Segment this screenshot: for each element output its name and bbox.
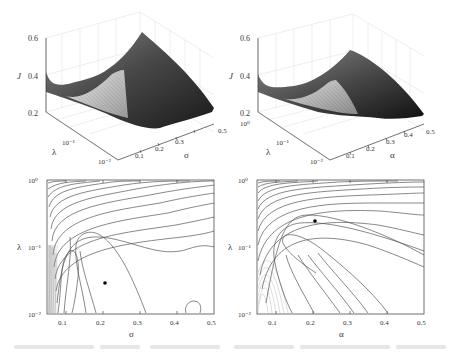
z-axis-label: J: [17, 71, 22, 81]
x-tick: 0.2: [306, 319, 315, 327]
y-tick: 10⁰: [238, 177, 248, 185]
z-tick: 0.6: [240, 34, 250, 43]
y-tick: 10⁻¹: [276, 139, 289, 147]
x-axis-label: σ: [129, 329, 134, 339]
y-tick: 10⁻¹: [62, 139, 75, 147]
x-axis: [330, 124, 424, 160]
z-tick: 0.2: [28, 109, 38, 118]
contour-plot-alpha: 10⁰ 10⁻¹ 10⁻² λ 0.1 0.2 0.3 0.4 0.5 α: [228, 175, 456, 343]
z-tick: 0.6: [28, 34, 38, 43]
y-axis-label: λ: [266, 147, 271, 157]
x-tick: 0.1: [58, 319, 67, 327]
x-tick: 0.1: [135, 152, 144, 160]
x-tick: 0.2: [366, 145, 375, 153]
z-tick: 0.4: [240, 72, 250, 81]
contour-plot-alpha-canvas: 10⁰ 10⁻¹ 10⁻² λ 0.1 0.2 0.3 0.4 0.5 α: [228, 175, 456, 343]
surface-plot-sigma: 0.6 0.4 0.2 J 10⁻¹ 10⁻² λ 0.1 0.2 0.3 0.…: [0, 0, 228, 175]
x-tick: 0.3: [386, 138, 395, 146]
surface-plot-alpha-canvas: 0.6 0.4 0.2 J 10⁰ 10⁻¹ 10⁻² λ 0.1 0.2 0.…: [228, 0, 456, 175]
x-tick: 0.4: [380, 319, 389, 327]
y-tick: 10⁻²: [98, 158, 111, 166]
x-tick: 0.3: [133, 319, 142, 327]
y-tick: 10⁻¹: [28, 244, 41, 252]
x-tick: 0.2: [155, 145, 164, 153]
z-axis-label: J: [229, 71, 234, 81]
surface-plot-alpha: 0.6 0.4 0.2 J 10⁰ 10⁻¹ 10⁻² λ 0.1 0.2 0.…: [228, 0, 456, 175]
y-axis-label: λ: [17, 242, 22, 252]
x-tick: 0.2: [96, 319, 105, 327]
x-tick: 0.5: [218, 127, 227, 135]
x-tick: 0.4: [404, 131, 413, 139]
plot-area: [257, 180, 424, 314]
y-tick: 10⁰: [28, 177, 38, 185]
figure-caption-illegible: [0, 343, 456, 351]
x-axis: [118, 124, 214, 160]
y-tick: 10⁻²: [310, 158, 323, 166]
y-tick: 10⁰: [240, 120, 250, 128]
minimum-marker: [313, 219, 317, 223]
z-tick: 0.4: [28, 72, 38, 81]
y-axis: [46, 112, 118, 160]
contour-plot-sigma: 10⁰ 10⁻¹ 10⁻² λ 0.1 0.2 0.3 0.4 0.5 σ: [0, 175, 228, 343]
y-tick: 10⁻¹: [238, 244, 251, 252]
surface-plot-sigma-canvas: 0.6 0.4 0.2 J 10⁻¹ 10⁻² λ 0.1 0.2 0.3 0.…: [0, 0, 228, 175]
contour-plot-sigma-canvas: 10⁰ 10⁻¹ 10⁻² λ 0.1 0.2 0.3 0.4 0.5 σ: [0, 175, 228, 343]
x-tick: 0.4: [170, 319, 179, 327]
x-axis-label: σ: [184, 150, 189, 160]
x-tick: 0.1: [268, 319, 277, 327]
x-tick: 0.3: [343, 319, 352, 327]
x-axis-label: α: [339, 329, 344, 339]
x-tick: 0.5: [426, 128, 435, 136]
y-axis-label: λ: [52, 147, 57, 157]
x-tick: 0.5: [417, 319, 426, 327]
y-tick: 10⁻²: [28, 311, 41, 319]
minimum-marker: [103, 281, 107, 285]
x-tick: 0.1: [346, 152, 355, 160]
y-axis-label: λ: [228, 242, 233, 252]
x-tick: 0.3: [175, 138, 184, 146]
x-axis-label: α: [390, 150, 395, 160]
z-tick: 0.2: [240, 109, 250, 118]
x-tick: 0.5: [207, 319, 216, 327]
y-tick: 10⁻²: [238, 311, 251, 319]
